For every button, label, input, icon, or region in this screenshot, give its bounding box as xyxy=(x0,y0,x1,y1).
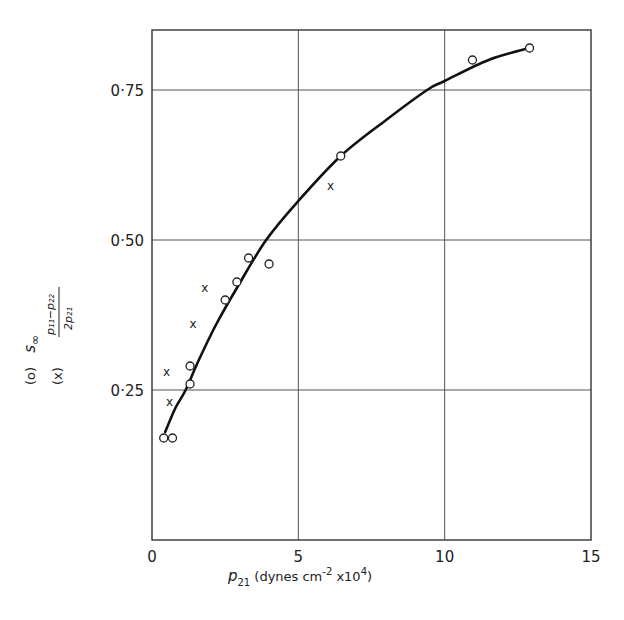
circle-marker xyxy=(265,260,273,268)
x-marker: x xyxy=(163,365,170,379)
x-tick-label: 5 xyxy=(294,548,304,566)
y-tick-label: 0·75 xyxy=(111,82,144,100)
circle-marker xyxy=(233,278,241,286)
circle-markers-series xyxy=(160,44,534,442)
y-axis-label: (o) s∞ (x) p₁₁−p₂₂ 2p₂₁ xyxy=(21,287,75,385)
y-label-line1: (o) s∞ xyxy=(21,335,42,385)
x-marker: x xyxy=(327,179,334,193)
x-marker: x xyxy=(201,281,208,295)
circle-marker xyxy=(337,152,345,160)
x-markers-series: xxxxx xyxy=(163,179,334,409)
circle-marker xyxy=(186,362,194,370)
circle-marker xyxy=(221,296,229,304)
circle-marker xyxy=(245,254,253,262)
circle-marker xyxy=(160,434,168,442)
plot-frame xyxy=(152,30,591,540)
x-marker: x xyxy=(166,395,173,409)
y-label-line2-marker: (x) xyxy=(50,367,65,385)
y-tick-label: 0·50 xyxy=(111,232,144,250)
y-label-line2-numerator: p₁₁−p₂₂ xyxy=(44,294,57,336)
grid-lines xyxy=(152,30,591,540)
chart: 051015 0·250·500·75 xxxxx p21 (dynes cm-… xyxy=(0,0,624,620)
circle-marker xyxy=(186,380,194,388)
circle-marker xyxy=(168,434,176,442)
circle-marker xyxy=(526,44,534,52)
x-tick-label: 10 xyxy=(435,548,454,566)
x-tick-label: 15 xyxy=(581,548,600,566)
y-tick-label: 0·25 xyxy=(111,382,144,400)
y-label-line2-denominator: 2p₂₁ xyxy=(62,307,75,330)
x-axis-label: p21 (dynes cm-2 x104) xyxy=(227,566,372,588)
x-tick-label: 0 xyxy=(147,548,157,566)
circle-marker xyxy=(468,56,476,64)
y-tick-labels: 0·250·500·75 xyxy=(111,82,144,400)
x-marker: x xyxy=(189,317,196,331)
x-tick-labels: 051015 xyxy=(147,548,600,566)
